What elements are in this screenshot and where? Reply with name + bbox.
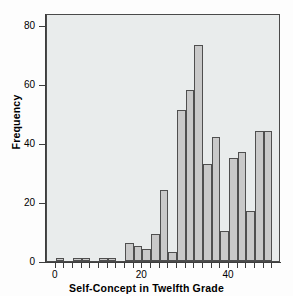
x-axis-tick <box>159 263 160 268</box>
y-axis-title: Frequency <box>10 62 22 182</box>
histogram-bar <box>108 258 117 261</box>
x-axis-tick <box>107 263 108 268</box>
histogram-bar <box>125 243 134 261</box>
y-axis-tick-label: 20 <box>0 198 35 208</box>
x-axis-tick <box>167 263 168 268</box>
y-axis-line <box>45 14 46 263</box>
x-axis-tick <box>115 263 116 268</box>
x-axis-title: Self-Concept in Twelfth Grade <box>0 282 293 294</box>
x-axis-tick <box>245 263 246 268</box>
x-axis-tick <box>72 263 73 268</box>
x-axis-tick <box>185 263 186 268</box>
x-axis-tick <box>237 263 238 268</box>
y-axis-tick <box>39 26 45 27</box>
y-axis-tick-label: 0 <box>0 257 35 267</box>
histogram-bar <box>99 258 108 261</box>
histogram-bar <box>194 45 203 261</box>
histogram-bar <box>229 158 238 261</box>
histogram-bar <box>246 211 255 261</box>
plot-area <box>47 15 279 261</box>
x-axis-tick <box>271 263 272 268</box>
x-axis-tick <box>133 263 134 268</box>
x-axis-tick <box>211 263 212 268</box>
x-axis-tick-label: 20 <box>126 270 156 280</box>
x-axis-tick <box>202 263 203 268</box>
histogram-bar <box>212 137 221 261</box>
histogram-bar <box>151 234 160 261</box>
x-axis-tick <box>219 263 220 268</box>
histogram-bar <box>168 252 177 261</box>
y-axis-tick-label: 80 <box>0 21 35 31</box>
x-axis-tick <box>228 263 229 268</box>
histogram-bar <box>73 258 82 261</box>
x-axis-tick <box>124 263 125 268</box>
x-axis-tick-label: 40 <box>213 270 243 280</box>
x-axis-tick <box>263 263 264 268</box>
histogram-bar <box>220 231 229 261</box>
x-axis-tick <box>193 263 194 268</box>
y-axis-tick <box>39 85 45 86</box>
histogram-figure: 020406080 Frequency 02040 Self-Concept i… <box>0 0 293 296</box>
histogram-bar <box>82 258 91 261</box>
x-axis-tick <box>98 263 99 268</box>
x-axis-tick <box>176 263 177 268</box>
histogram-bar <box>160 190 169 261</box>
plot-frame <box>46 14 280 262</box>
histogram-bar <box>264 131 273 261</box>
histogram-bar <box>142 249 151 261</box>
histogram-bar <box>186 90 195 261</box>
x-axis-tick <box>150 263 151 268</box>
histogram-bar <box>238 152 247 261</box>
histogram-bar <box>56 258 65 261</box>
histogram-bar <box>203 164 212 261</box>
x-axis-tick <box>89 263 90 268</box>
histogram-bar <box>177 110 186 261</box>
x-axis-tick <box>63 263 64 268</box>
histogram-bar <box>134 246 143 261</box>
y-axis-tick <box>39 203 45 204</box>
y-axis-tick <box>39 144 45 145</box>
histogram-bar <box>255 131 264 261</box>
x-axis-tick <box>55 263 56 268</box>
x-axis-tick <box>254 263 255 268</box>
x-axis-tick <box>141 263 142 268</box>
x-axis-tick-label: 0 <box>40 270 70 280</box>
x-axis-tick <box>81 263 82 268</box>
